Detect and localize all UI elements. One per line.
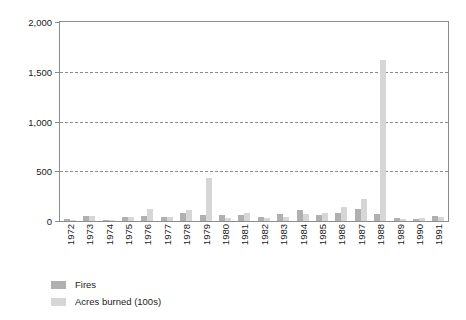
bar-acres-burned [322, 213, 328, 221]
bar-group [235, 22, 254, 221]
x-axis-tick-label: 1979 [200, 224, 211, 245]
bar-group [371, 22, 390, 221]
bar-acres-burned [186, 210, 192, 221]
bar-chart: 05001,0001,5002,000 19721973197419751976… [0, 0, 466, 320]
bar-group [79, 22, 98, 221]
bar-group [273, 22, 292, 221]
bar-group [60, 22, 79, 221]
x-axis-tick-label: 1980 [219, 224, 230, 245]
legend-swatch-icon [51, 298, 66, 306]
x-axis-tick-cell: 1985 [312, 224, 331, 268]
x-axis-tick-label: 1985 [316, 224, 327, 245]
x-axis: 1972197319741975197619771978197919801981… [60, 224, 448, 268]
bar-acres-burned [438, 217, 444, 221]
x-axis-tick-label: 1976 [142, 224, 153, 245]
bar-group [351, 22, 370, 221]
x-axis-tick-cell: 1987 [351, 224, 370, 268]
x-axis-tick-cell: 1974 [99, 224, 118, 268]
bar-group [429, 22, 448, 221]
bar-acres-burned [128, 217, 134, 221]
bar-group [332, 22, 351, 221]
x-axis-tick-label: 1988 [375, 224, 386, 245]
x-axis-tick-label: 1986 [336, 224, 347, 245]
x-axis-tick-label: 1983 [278, 224, 289, 245]
bar-acres-burned [380, 60, 386, 221]
y-axis-tick-label: 1,500 [0, 66, 52, 77]
bar-group [176, 22, 195, 221]
bar-acres-burned [264, 218, 270, 221]
x-axis-tick-cell: 1991 [429, 224, 448, 268]
x-axis-tick-cell: 1980 [215, 224, 234, 268]
bar-acres-burned [206, 178, 212, 221]
x-axis-tick-cell: 1989 [390, 224, 409, 268]
x-axis-tick-label: 1972 [64, 224, 75, 245]
x-axis-tick-cell: 1973 [79, 224, 98, 268]
bar-group [390, 22, 409, 221]
x-axis-tick-cell: 1977 [157, 224, 176, 268]
bar-acres-burned [225, 218, 231, 221]
x-axis-tick-cell: 1978 [176, 224, 195, 268]
bar-acres-burned [361, 199, 367, 221]
y-axis-tick-label: 2,000 [0, 17, 52, 28]
bar-group [293, 22, 312, 221]
x-axis-tick-label: 1991 [433, 224, 444, 245]
bar-group [99, 22, 118, 221]
bar-acres-burned [341, 207, 347, 221]
bar-acres-burned [283, 217, 289, 221]
legend-label: Fires [75, 279, 96, 290]
bar-group [118, 22, 137, 221]
bar-group [138, 22, 157, 221]
bar-acres-burned [400, 219, 406, 221]
x-axis-tick-cell: 1979 [196, 224, 215, 268]
x-axis-tick-label: 1987 [355, 224, 366, 245]
x-axis-tick-label: 1978 [181, 224, 192, 245]
bar-group [215, 22, 234, 221]
x-axis-tick-cell: 1981 [235, 224, 254, 268]
legend-item: Acres burned (100s) [51, 294, 161, 309]
bar-group [312, 22, 331, 221]
x-axis-tick-cell: 1984 [293, 224, 312, 268]
x-axis-tick-label: 1981 [239, 224, 250, 245]
x-axis-tick-cell: 1983 [273, 224, 292, 268]
bar-acres-burned [419, 218, 425, 221]
bar-group [157, 22, 176, 221]
x-axis-tick-cell: 1975 [118, 224, 137, 268]
x-axis-tick-cell: 1990 [409, 224, 428, 268]
x-axis-tick-cell: 1982 [254, 224, 273, 268]
x-axis-tick-label: 1973 [84, 224, 95, 245]
chart-legend: FiresAcres burned (100s) [51, 277, 161, 311]
x-axis-tick-label: 1975 [122, 224, 133, 245]
y-axis-tick-label: 0 [0, 216, 52, 227]
bar-acres-burned [109, 220, 115, 221]
x-axis-tick-label: 1984 [297, 224, 308, 245]
x-axis-tick-cell: 1976 [138, 224, 157, 268]
x-axis-tick-label: 1990 [414, 224, 425, 245]
bar-group [254, 22, 273, 221]
x-axis-tick-label: 1989 [394, 224, 405, 245]
bar-acres-burned [244, 213, 250, 221]
bar-acres-burned [303, 214, 309, 221]
y-axis-tick-label: 500 [0, 166, 52, 177]
bar-group [409, 22, 428, 221]
x-axis-tick-label: 1977 [161, 224, 172, 245]
bar-acres-burned [147, 209, 153, 221]
bar-group [196, 22, 215, 221]
bar-acres-burned [167, 217, 173, 221]
legend-label: Acres burned (100s) [75, 296, 161, 307]
x-axis-tick-cell: 1972 [60, 224, 79, 268]
bar-acres-burned [70, 220, 76, 221]
x-axis-tick-cell: 1986 [332, 224, 351, 268]
bar-acres-burned [89, 216, 95, 221]
legend-item: Fires [51, 277, 161, 292]
bars-layer [60, 22, 448, 221]
y-axis-tick-label: 1,000 [0, 116, 52, 127]
x-axis-tick-label: 1982 [258, 224, 269, 245]
x-axis-tick-cell: 1988 [371, 224, 390, 268]
legend-swatch-icon [51, 281, 66, 289]
x-axis-tick-label: 1974 [103, 224, 114, 245]
